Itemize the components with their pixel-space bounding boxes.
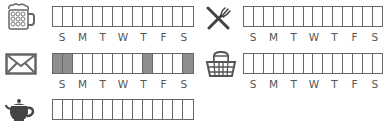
grid-cell[interactable] (274, 54, 284, 73)
day-labels: SM TW TF S (52, 31, 194, 43)
day-label: M (72, 78, 92, 90)
grid-cell[interactable] (294, 7, 304, 26)
grid-cell[interactable] (284, 7, 294, 26)
day-label: T (133, 78, 153, 90)
grid-cell[interactable] (313, 54, 323, 73)
teapot-icon (5, 97, 35, 123)
grid-cell[interactable] (173, 54, 183, 73)
grid-cell[interactable] (323, 54, 333, 73)
grid-cell[interactable] (353, 54, 363, 73)
grid-cell[interactable] (254, 54, 264, 73)
grid-cell[interactable] (183, 7, 193, 26)
grid-cell[interactable] (63, 100, 73, 119)
day-label: T (324, 31, 344, 43)
grid-cell[interactable] (53, 7, 63, 26)
grid-cell[interactable] (264, 54, 274, 73)
grid-cell[interactable] (363, 54, 373, 73)
grid-cell[interactable] (244, 54, 254, 73)
day-label: M (263, 78, 283, 90)
grid-cell[interactable] (323, 7, 333, 26)
picnic-week-grid[interactable] (243, 53, 383, 74)
grid-cell[interactable] (143, 7, 153, 26)
grid-cell[interactable] (173, 100, 183, 119)
grid-cell-shaded[interactable] (183, 54, 193, 73)
grid-cell[interactable] (353, 7, 363, 26)
grid-cell[interactable] (163, 100, 173, 119)
grid-cell[interactable] (63, 7, 73, 26)
grid-cell[interactable] (53, 100, 63, 119)
grid-cell[interactable] (244, 7, 254, 26)
grid-cell[interactable] (264, 7, 274, 26)
grid-cell[interactable] (93, 100, 103, 119)
grid-cell[interactable] (373, 7, 383, 26)
grid-cell[interactable] (153, 54, 163, 73)
beer-mug-icon (5, 3, 35, 31)
day-labels: SM TW TF S (243, 78, 385, 90)
grid-cell[interactable] (103, 100, 113, 119)
grid-cell[interactable] (113, 7, 123, 26)
grid-cell[interactable] (83, 54, 93, 73)
day-label: F (153, 31, 173, 43)
grid-cell[interactable] (133, 7, 143, 26)
grid-cell[interactable] (284, 54, 294, 73)
day-label: W (304, 31, 324, 43)
grid-cell[interactable] (274, 7, 284, 26)
grid-cell[interactable] (123, 54, 133, 73)
grid-cell[interactable] (113, 100, 123, 119)
grid-cell[interactable] (333, 54, 343, 73)
grid-cell[interactable] (93, 7, 103, 26)
grid-cell[interactable] (73, 54, 83, 73)
grid-cell[interactable] (103, 7, 113, 26)
grid-cell[interactable] (173, 7, 183, 26)
picnic-basket-icon (205, 50, 237, 78)
grid-cell[interactable] (304, 7, 314, 26)
grid-cell-shaded[interactable] (63, 54, 73, 73)
day-label: W (113, 31, 133, 43)
day-label: M (72, 31, 92, 43)
grid-cell[interactable] (123, 7, 133, 26)
day-label: T (93, 31, 113, 43)
grid-cell[interactable] (73, 7, 83, 26)
grid-cell[interactable] (163, 54, 173, 73)
day-label: W (113, 78, 133, 90)
grid-cell[interactable] (73, 100, 83, 119)
grid-cell[interactable] (143, 100, 153, 119)
grid-cell[interactable] (333, 7, 343, 26)
grid-cell[interactable] (363, 7, 373, 26)
day-label: W (304, 78, 324, 90)
grid-cell[interactable] (113, 54, 123, 73)
day-label: S (243, 78, 263, 90)
grid-cell[interactable] (83, 7, 93, 26)
beer-week-grid[interactable] (52, 6, 194, 27)
grid-cell[interactable] (153, 7, 163, 26)
grid-cell[interactable] (153, 100, 163, 119)
day-label: S (365, 31, 385, 43)
grid-cell[interactable] (103, 54, 113, 73)
grid-cell[interactable] (133, 54, 143, 73)
grid-cell[interactable] (343, 7, 353, 26)
grid-cell[interactable] (294, 54, 304, 73)
grid-cell[interactable] (254, 7, 264, 26)
grid-cell[interactable] (123, 100, 133, 119)
grid-cell-shaded[interactable] (53, 54, 63, 73)
grid-cell[interactable] (83, 100, 93, 119)
day-label: F (344, 31, 364, 43)
mail-week-grid[interactable] (52, 53, 194, 74)
day-labels: SM TW TF S (52, 78, 194, 90)
tea-week-grid[interactable] (52, 99, 194, 120)
dining-week-grid[interactable] (243, 6, 383, 27)
day-label: M (263, 31, 283, 43)
grid-cell[interactable] (304, 54, 314, 73)
grid-cell[interactable] (313, 7, 323, 26)
day-label: T (93, 78, 113, 90)
grid-cell[interactable] (373, 54, 383, 73)
grid-cell[interactable] (163, 7, 173, 26)
grid-cell-shaded[interactable] (143, 54, 153, 73)
grid-cell[interactable] (93, 54, 103, 73)
grid-cell[interactable] (133, 100, 143, 119)
day-label: T (284, 78, 304, 90)
day-label: T (133, 31, 153, 43)
fork-knife-icon (206, 6, 232, 30)
grid-cell[interactable] (343, 54, 353, 73)
grid-cell[interactable] (183, 100, 193, 119)
